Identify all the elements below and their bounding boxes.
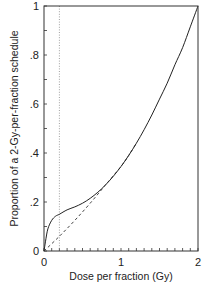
solid-curve	[44, 6, 198, 251]
y-tick-label: .4	[30, 147, 39, 159]
y-tick-label: 1	[33, 0, 39, 12]
plot-frame	[44, 6, 198, 251]
x-tick-label: 0	[41, 256, 47, 268]
y-tick-labels: 0.2.4.6.81	[30, 0, 39, 257]
y-tick-label: 0	[33, 245, 39, 257]
y-tick-label: .2	[30, 196, 39, 208]
x-axis-title: Dose per fraction (Gy)	[69, 270, 172, 282]
y-axis-title: Proportion of a 2-Gy-per-fraction schedu…	[8, 30, 20, 226]
x-tick-label: 2	[195, 256, 201, 268]
y-tick-label: .6	[30, 98, 39, 110]
x-tick-label: 1	[118, 256, 124, 268]
dashed-curve	[44, 143, 136, 251]
y-tick-label: .8	[30, 49, 39, 61]
chart: 012 0.2.4.6.81 Dose per fraction (Gy) Pr…	[0, 0, 218, 291]
x-tick-labels: 012	[41, 256, 201, 268]
